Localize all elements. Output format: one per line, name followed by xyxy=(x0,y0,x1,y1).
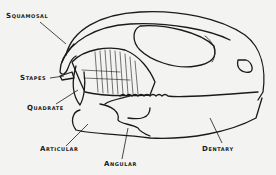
leader-dentary xyxy=(210,118,222,143)
nostril xyxy=(238,60,252,72)
label-quadrate: Quadrate xyxy=(27,105,64,112)
orbit-outline xyxy=(134,26,215,67)
label-stapes: Stapes xyxy=(20,75,46,82)
label-squamosal: Squamosal xyxy=(6,13,48,20)
label-articular: Articular xyxy=(40,146,78,153)
label-dentary: Dentary xyxy=(202,146,234,153)
leader-articular xyxy=(66,124,88,146)
articular-angular-suture xyxy=(100,104,150,136)
label-angular: Angular xyxy=(104,161,137,168)
leader-stapes xyxy=(50,76,64,78)
temporal-arch xyxy=(62,24,230,62)
quadrate-bone xyxy=(73,66,84,105)
leader-quadrate xyxy=(56,90,78,104)
leader-angular xyxy=(122,128,128,159)
leader-squamosal xyxy=(40,22,66,44)
